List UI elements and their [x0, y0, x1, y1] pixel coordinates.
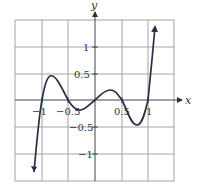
- y-tick-label-1: 1: [83, 42, 89, 53]
- x-axis-label: x: [185, 94, 192, 107]
- y-axis-label: y: [90, 0, 98, 12]
- y-tick-label-neg0.5: −0.5: [69, 122, 93, 133]
- x-tick-label-neg1: −1: [32, 106, 47, 117]
- y-tick-label-neg1: −1: [78, 149, 93, 160]
- y-tick-label-0.5: 0.5: [74, 69, 90, 80]
- x-tick-label-1: 1: [146, 106, 152, 117]
- curve-arrow-down-icon: [31, 166, 37, 172]
- x-tick-label-neg0.5: −0.5: [56, 106, 80, 117]
- polynomial-graph: y x 1 0.5 −0.5 −1 −1 −0.5 0.5 1: [0, 0, 205, 186]
- x-tick-label-0.5: 0.5: [114, 106, 130, 117]
